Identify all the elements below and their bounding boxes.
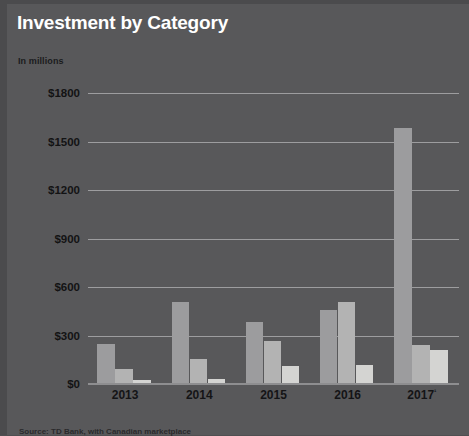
- bar[interactable]: [115, 369, 133, 384]
- y-axis-tick-label: $300: [18, 330, 80, 342]
- y-axis-tick-label: $1800: [18, 87, 80, 99]
- left-edge-strip: [0, 0, 7, 435]
- bar[interactable]: [394, 128, 412, 384]
- bar[interactable]: [97, 344, 115, 384]
- bar[interactable]: [172, 302, 190, 384]
- y-axis-tick-label: $0: [18, 378, 80, 390]
- bar[interactable]: [246, 322, 264, 384]
- chart-subtitle: In millions: [18, 56, 64, 66]
- bar-group: [97, 93, 151, 384]
- bar-group: [172, 93, 226, 384]
- bar-series-group: [88, 93, 459, 384]
- x-axis-tick-label: 2016: [311, 388, 385, 402]
- bar[interactable]: [356, 365, 374, 384]
- x-axis: 20132014201520162017¹: [88, 388, 459, 408]
- bar[interactable]: [190, 359, 208, 384]
- source-note: Source: TD Bank, with Canadian marketpla…: [19, 427, 191, 436]
- page-title: Investment by Category: [17, 12, 228, 34]
- bar-group: [320, 93, 374, 384]
- top-edge-strip: [0, 0, 469, 4]
- bar[interactable]: [264, 341, 282, 384]
- y-axis-tick-label: $1200: [18, 184, 80, 196]
- y-axis-tick-label: $1500: [18, 136, 80, 148]
- x-axis-tick-label: 2014: [162, 388, 236, 402]
- bar-group: [246, 93, 300, 384]
- bar[interactable]: [338, 302, 356, 384]
- bar-group: [394, 93, 448, 384]
- bar[interactable]: [412, 345, 430, 384]
- y-axis-tick-label: $900: [18, 233, 80, 245]
- x-axis-tick-label: 2013: [88, 388, 162, 402]
- x-axis-tick-label: 2015: [236, 388, 310, 402]
- bar[interactable]: [430, 350, 448, 384]
- x-axis-baseline: [88, 383, 459, 385]
- y-axis-tick-label: $600: [18, 281, 80, 293]
- plot-area: [88, 93, 459, 384]
- bar[interactable]: [320, 310, 338, 384]
- y-axis: $0$300$600$900$1200$1500$1800: [8, 93, 80, 384]
- bar[interactable]: [282, 366, 300, 384]
- x-axis-tick-label: 2017¹: [385, 388, 459, 402]
